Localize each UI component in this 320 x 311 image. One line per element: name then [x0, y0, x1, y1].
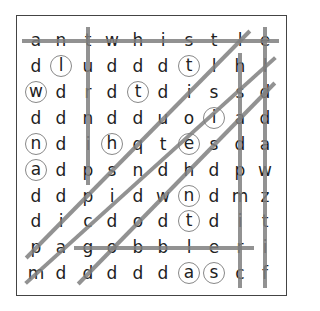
grid-letter-r8-c5[interactable]: o	[127, 210, 149, 232]
grid-letter-r7-c6[interactable]: w	[152, 185, 174, 207]
grid-letter-r6-c2[interactable]: d	[50, 159, 72, 181]
grid-letter-r2-c2[interactable]: l	[50, 55, 72, 77]
grid-letter-r8-c6[interactable]: d	[152, 210, 174, 232]
grid-letter-r3-c1[interactable]: w	[25, 81, 47, 103]
grid-letter-r6-c4[interactable]: s	[101, 159, 123, 181]
grid-letter-r1-c1[interactable]: a	[25, 29, 47, 51]
grid-letter-r8-c8[interactable]: d	[203, 210, 225, 232]
grid-letter-r8-c3[interactable]: c	[77, 210, 99, 232]
grid-letter-r9-c9[interactable]: r	[229, 236, 251, 258]
grid-letter-r9-c3[interactable]: g	[77, 236, 99, 258]
grid-letter-r7-c9[interactable]: m	[229, 185, 251, 207]
grid-letter-r4-c10[interactable]: d	[254, 107, 276, 129]
grid-letter-r1-c9[interactable]: l	[229, 29, 251, 51]
grid-letter-r10-c8[interactable]: s	[203, 262, 225, 284]
grid-letter-r9-c10[interactable]: i	[254, 236, 276, 258]
grid-letter-r10-c3[interactable]: d	[77, 262, 99, 284]
grid-letter-r8-c2[interactable]: i	[50, 210, 72, 232]
grid-letter-r5-c3[interactable]: i	[77, 133, 99, 155]
grid-letter-r1-c4[interactable]: w	[101, 29, 123, 51]
grid-letter-r5-c7[interactable]: e	[178, 133, 200, 155]
grid-letter-r9-c5[interactable]: b	[127, 236, 149, 258]
grid-letter-r4-c1[interactable]: d	[25, 107, 47, 129]
grid-letter-r5-c9[interactable]: d	[229, 133, 251, 155]
grid-letter-r8-c1[interactable]: d	[25, 210, 47, 232]
grid-letter-r3-c7[interactable]: i	[178, 81, 200, 103]
grid-letter-r4-c7[interactable]: o	[178, 107, 200, 129]
grid-letter-r3-c3[interactable]: r	[77, 81, 99, 103]
grid-letter-r7-c8[interactable]: d	[203, 185, 225, 207]
grid-letter-r1-c10[interactable]: e	[254, 29, 276, 51]
grid-letter-r10-c2[interactable]: d	[50, 262, 72, 284]
grid-letter-r4-c8[interactable]: i	[203, 107, 225, 129]
grid-letter-r6-c6[interactable]: d	[152, 159, 174, 181]
grid-letter-r2-c9[interactable]: h	[229, 55, 251, 77]
grid-letter-r2-c3[interactable]: u	[77, 55, 99, 77]
grid-letter-r10-c7[interactable]: a	[178, 262, 200, 284]
grid-letter-r1-c5[interactable]: h	[127, 29, 149, 51]
grid-letter-r7-c7[interactable]: n	[178, 185, 200, 207]
grid-letter-r10-c10[interactable]: f	[254, 262, 276, 284]
grid-letter-r4-c2[interactable]: d	[50, 107, 72, 129]
grid-letter-r6-c9[interactable]: p	[229, 159, 251, 181]
grid-letter-r10-c1[interactable]: m	[25, 262, 47, 284]
grid-letter-r5-c10[interactable]: a	[254, 133, 276, 155]
grid-letter-r3-c8[interactable]: s	[203, 81, 225, 103]
grid-letter-r3-c6[interactable]: d	[152, 81, 174, 103]
grid-letter-r2-c10[interactable]: l	[254, 55, 276, 77]
grid-letter-r10-c6[interactable]: d	[152, 262, 174, 284]
grid-letter-r8-c10[interactable]: t	[254, 210, 276, 232]
grid-letter-r3-c2[interactable]: d	[50, 81, 72, 103]
grid-letter-r1-c6[interactable]: i	[152, 29, 174, 51]
grid-letter-r9-c6[interactable]: b	[152, 236, 174, 258]
grid-letter-r7-c3[interactable]: p	[77, 185, 99, 207]
grid-letter-r6-c3[interactable]: p	[77, 159, 99, 181]
grid-letter-r5-c1[interactable]: n	[25, 133, 47, 155]
grid-letter-r6-c8[interactable]: d	[203, 159, 225, 181]
grid-letter-r9-c7[interactable]: l	[178, 236, 200, 258]
grid-letter-r3-c9[interactable]: s	[229, 81, 251, 103]
grid-letter-r9-c1[interactable]: p	[25, 236, 47, 258]
grid-letter-r5-c2[interactable]: d	[50, 133, 72, 155]
grid-letter-r2-c1[interactable]: d	[25, 55, 47, 77]
grid-letter-r2-c6[interactable]: d	[152, 55, 174, 77]
grid-letter-r10-c5[interactable]: d	[127, 262, 149, 284]
grid-letter-r4-c4[interactable]: d	[101, 107, 123, 129]
grid-letter-r4-c3[interactable]: n	[77, 107, 99, 129]
grid-letter-r2-c7[interactable]: t	[178, 55, 200, 77]
grid-letter-r7-c10[interactable]: z	[254, 185, 276, 207]
grid-letter-r2-c5[interactable]: d	[127, 55, 149, 77]
grid-letter-r6-c7[interactable]: h	[178, 159, 200, 181]
grid-letter-r4-c6[interactable]: u	[152, 107, 174, 129]
grid-letter-r7-c5[interactable]: d	[127, 185, 149, 207]
grid-letter-r5-c8[interactable]: s	[203, 133, 225, 155]
grid-letter-r4-c5[interactable]: d	[127, 107, 149, 129]
grid-letter-r6-c1[interactable]: a	[25, 159, 47, 181]
grid-letter-r1-c8[interactable]: t	[203, 29, 225, 51]
grid-letter-r10-c4[interactable]: d	[101, 262, 123, 284]
grid-letter-r8-c9[interactable]: i	[229, 210, 251, 232]
grid-letter-r10-c9[interactable]: c	[229, 262, 251, 284]
grid-letter-r4-c9[interactable]: a	[229, 107, 251, 129]
grid-letter-r6-c5[interactable]: n	[127, 159, 149, 181]
grid-letter-r9-c4[interactable]: o	[101, 236, 123, 258]
grid-letter-r1-c2[interactable]: n	[50, 29, 72, 51]
grid-letter-r5-c4[interactable]: h	[101, 133, 123, 155]
grid-letter-r3-c5[interactable]: t	[127, 81, 149, 103]
grid-letter-r3-c10[interactable]: d	[254, 81, 276, 103]
grid-letter-r1-c3[interactable]: t	[77, 29, 99, 51]
grid-letter-r3-c4[interactable]: d	[101, 81, 123, 103]
grid-letter-r2-c8[interactable]: l	[203, 55, 225, 77]
grid-letter-r7-c4[interactable]: i	[101, 185, 123, 207]
grid-letter-r5-c6[interactable]: t	[152, 133, 174, 155]
grid-letter-r9-c8[interactable]: e	[203, 236, 225, 258]
grid-letter-r7-c1[interactable]: d	[25, 185, 47, 207]
grid-letter-r8-c4[interactable]: d	[101, 210, 123, 232]
grid-letter-r7-c2[interactable]: d	[50, 185, 72, 207]
grid-letter-r9-c2[interactable]: a	[50, 236, 72, 258]
grid-letter-r6-c10[interactable]: w	[254, 159, 276, 181]
grid-letter-r5-c5[interactable]: q	[127, 133, 149, 155]
grid-letter-r2-c4[interactable]: d	[101, 55, 123, 77]
grid-letter-r1-c7[interactable]: s	[178, 29, 200, 51]
grid-letter-r8-c7[interactable]: t	[178, 210, 200, 232]
